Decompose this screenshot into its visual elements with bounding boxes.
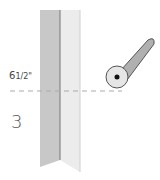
fabric-strip-left	[40, 10, 60, 167]
measurement-fraction: 1/2"	[15, 72, 32, 81]
measurement-label: 61/2"	[9, 70, 32, 81]
rotary-cutter-icon	[106, 39, 154, 88]
quilt-cutting-diagram	[0, 0, 160, 180]
step-number: 3	[11, 111, 22, 132]
